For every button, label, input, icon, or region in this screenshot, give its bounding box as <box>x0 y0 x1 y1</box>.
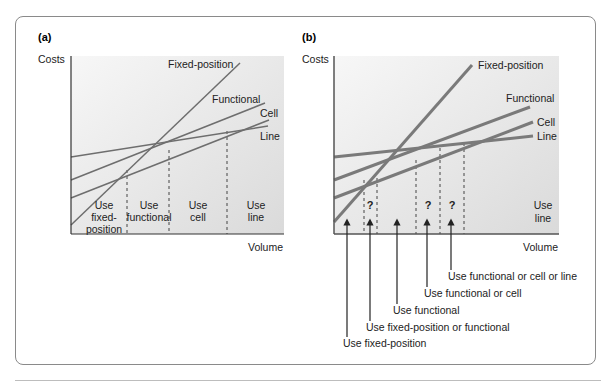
panel-a-label: (a) <box>38 31 52 43</box>
panel-b-annotation-functional-cell-or-line: Use functional or cell or line <box>448 270 577 282</box>
panel-a-series-label-functional: Functional <box>212 93 260 105</box>
panel-b-annotation-functional: Use functional <box>393 304 460 316</box>
svg-text:Use: Use <box>247 199 266 211</box>
panel-a-region-cell: Use cell <box>189 199 208 223</box>
panel-b: (b) Costs Volume Fixed-position Function… <box>302 31 577 349</box>
panel-a-series-label-fixed-position: Fixed-position <box>168 58 234 70</box>
panel-b-uncertain-mark-2: ? <box>425 199 432 211</box>
svg-text:functional: functional <box>127 211 172 223</box>
svg-text:position: position <box>86 223 122 235</box>
panel-a-x-axis-label: Volume <box>248 241 283 253</box>
svg-text:line: line <box>535 212 552 224</box>
panel-b-y-axis-label: Costs <box>302 53 329 65</box>
svg-text:fixed-: fixed- <box>91 211 117 223</box>
panel-a: (a) Costs Volume Fixed-position Function… <box>38 31 284 253</box>
panel-a-series-label-line: Line <box>260 130 280 142</box>
panel-b-annotation-functional-or-cell: Use functional or cell <box>424 287 521 299</box>
panel-b-annotation-fixed-position: Use fixed-position <box>343 337 427 349</box>
panel-b-series-label-cell: Cell <box>537 116 555 128</box>
panel-a-series-label-cell: Cell <box>260 107 278 119</box>
panel-b-series-label-fixed-position: Fixed-position <box>478 59 544 71</box>
panel-b-uncertain-mark-3: ? <box>449 199 456 211</box>
panel-b-label: (b) <box>302 31 316 43</box>
panel-b-x-axis-label: Volume <box>523 241 558 253</box>
svg-text:Use: Use <box>140 199 159 211</box>
svg-text:cell: cell <box>190 211 206 223</box>
svg-text:Use: Use <box>95 199 114 211</box>
panel-b-series-label-line: Line <box>537 130 557 142</box>
panel-b-series-label-functional: Functional <box>506 92 554 104</box>
svg-text:line: line <box>248 211 265 223</box>
panel-b-region-line: Use line <box>534 199 553 224</box>
svg-text:Use: Use <box>534 199 553 211</box>
panel-a-region-line: Use line <box>247 199 266 223</box>
panel-b-annotation-fixed-or-functional: Use fixed-position or functional <box>366 321 510 333</box>
svg-text:Use: Use <box>189 199 208 211</box>
panel-b-uncertain-mark-1: ? <box>367 199 374 211</box>
cost-volume-diagram: (a) Costs Volume Fixed-position Function… <box>0 0 611 384</box>
panel-a-y-axis-label: Costs <box>38 53 65 65</box>
